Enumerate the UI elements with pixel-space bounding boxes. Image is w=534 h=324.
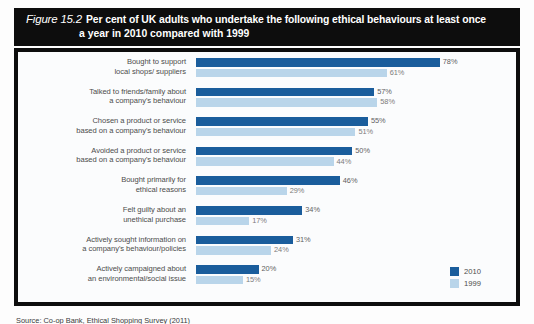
bar-2010 <box>196 265 259 274</box>
bar-1999 <box>196 69 387 78</box>
category-label-line: Felt guilty about an <box>18 205 186 215</box>
bar-2010 <box>196 88 374 97</box>
category-label-line: an environmental/social issue <box>18 274 186 284</box>
bar-value-label: 61% <box>387 69 405 78</box>
bar-value-label: 15% <box>243 276 261 285</box>
category-label-line: Actively campaigned about <box>18 264 186 274</box>
figure-title-line-2: a year in 2010 compared with 1999 <box>26 27 510 41</box>
category-label: Felt guilty about anunethical purchase <box>18 205 186 224</box>
bar-value-label: 51% <box>355 128 373 137</box>
bar-1999 <box>196 128 355 137</box>
bar-1999 <box>196 98 377 107</box>
bar-2010 <box>196 176 340 185</box>
figure-title-line-1: Figure 15.2Per cent of UK adults who und… <box>26 13 510 27</box>
bar-value-label: 78% <box>440 58 458 67</box>
bar-value-label: 57% <box>374 88 392 97</box>
category-label-line: a company's behaviour <box>18 96 186 106</box>
bar-group: Bought primarily forethical reasons46%29… <box>18 175 516 201</box>
figure-number: Figure 15.2 <box>26 13 86 25</box>
category-label: Bought primarily forethical reasons <box>18 175 186 194</box>
bar-value-label: 58% <box>377 98 395 107</box>
bar-2010 <box>196 236 293 245</box>
bar-group: Actively campaigned aboutan environmenta… <box>18 264 516 290</box>
bar-group: Chosen a product or servicebased on a co… <box>18 116 516 142</box>
category-label: Avoided a product or servicebased on a c… <box>18 146 186 165</box>
figure-source: Source: Co-op Bank, Ethical Shopping Sur… <box>16 316 516 324</box>
chart-panel: Bought to supportlocal shops/ suppliers7… <box>18 52 516 302</box>
bar-2010 <box>196 58 440 67</box>
legend-label: 1999 <box>459 279 481 288</box>
category-label-line: Avoided a product or service <box>18 146 186 156</box>
bar-group: Bought to supportlocal shops/ suppliers7… <box>18 57 516 83</box>
bar-chart-plot: Bought to supportlocal shops/ suppliers7… <box>18 52 516 302</box>
legend-swatch-icon <box>450 267 459 276</box>
category-label-line: local shops/ suppliers <box>18 67 186 77</box>
bar-group: Felt guilty about anunethical purchase34… <box>18 205 516 231</box>
bar-value-label: 46% <box>340 177 358 186</box>
category-label-line: unethical purchase <box>18 215 186 225</box>
bar-2010 <box>196 117 368 126</box>
category-label-line: based on a company's behaviour <box>18 126 186 136</box>
figure-container: Figure 15.2Per cent of UK adults who und… <box>0 0 534 324</box>
category-label-line: Actively sought information on <box>18 235 186 245</box>
category-label-line: Bought primarily for <box>18 175 186 185</box>
bar-value-label: 34% <box>302 206 320 215</box>
category-label: Actively sought information ona company'… <box>18 235 186 254</box>
chart-frame: Bought to supportlocal shops/ suppliers7… <box>14 48 520 306</box>
figure-title-banner: Figure 15.2Per cent of UK adults who und… <box>14 8 520 46</box>
bar-group: Talked to friends/family abouta company'… <box>18 87 516 113</box>
bar-value-label: 50% <box>352 147 370 156</box>
legend-label: 2010 <box>459 267 481 276</box>
legend-item: 2010 <box>450 266 506 277</box>
bar-value-label: 31% <box>293 236 311 245</box>
bar-2010 <box>196 147 352 156</box>
bar-1999 <box>196 217 249 226</box>
category-label-line: a company's behaviour/policies <box>18 244 186 254</box>
bar-value-label: 24% <box>271 246 289 255</box>
bar-2010 <box>196 206 302 215</box>
legend-item: 1999 <box>450 278 506 289</box>
category-label: Chosen a product or servicebased on a co… <box>18 116 186 135</box>
bar-group: Actively sought information ona company'… <box>18 235 516 261</box>
bar-value-label: 55% <box>368 117 386 126</box>
bar-group: Avoided a product or servicebased on a c… <box>18 146 516 172</box>
bar-value-label: 29% <box>287 187 305 196</box>
bar-1999 <box>196 187 287 196</box>
bar-value-label: 44% <box>334 158 352 167</box>
category-label: Talked to friends/family abouta company'… <box>18 87 186 106</box>
category-label: Bought to supportlocal shops/ suppliers <box>18 57 186 76</box>
category-label-line: ethical reasons <box>18 185 186 195</box>
category-label-line: Bought to support <box>18 57 186 67</box>
category-label-line: Talked to friends/family about <box>18 87 186 97</box>
bar-1999 <box>196 246 271 255</box>
category-label: Actively campaigned aboutan environmenta… <box>18 264 186 283</box>
category-label-line: Chosen a product or service <box>18 116 186 126</box>
bar-1999 <box>196 157 334 166</box>
legend-swatch-icon <box>450 279 459 288</box>
bar-value-label: 17% <box>249 217 267 226</box>
chart-legend: 20101999 <box>450 266 506 290</box>
category-label-line: based on a company's behaviour <box>18 155 186 165</box>
figure-title-text: Per cent of UK adults who undertake the … <box>86 14 486 25</box>
bar-1999 <box>196 276 243 285</box>
bar-value-label: 20% <box>259 265 277 274</box>
